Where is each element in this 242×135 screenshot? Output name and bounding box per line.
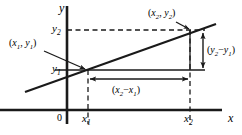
y1-tick-label: y1: [52, 63, 61, 77]
y2-tick-label: y2: [52, 23, 61, 37]
origin-label: 0: [57, 113, 62, 123]
y-axis-label: y: [59, 2, 64, 14]
point1-leader-line: [44, 51, 85, 69]
x1-tick-label: x1: [82, 113, 91, 127]
point2-coordinate-label: (x2, y2): [148, 8, 175, 21]
rise-measure-label: (y2−y1): [207, 45, 235, 58]
x-axis-label: x: [228, 112, 233, 124]
run-measure-label: (x2−x1): [112, 85, 140, 98]
slope-diagram: y x 0 y2 y1 x1 x2 (x1, y1) (x2, y2) (x2−…: [0, 0, 242, 135]
point1-coordinate-label: (x1, y1): [9, 38, 36, 51]
point2-leader-line: [176, 22, 189, 29]
x2-tick-label: x2: [184, 113, 193, 127]
diagram-canvas: [0, 0, 242, 135]
